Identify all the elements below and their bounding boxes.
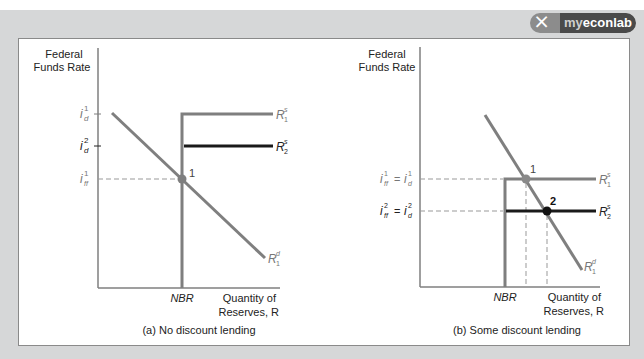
x-axis-label: Quantity of bbox=[223, 292, 277, 304]
x-axis-label: Reserves, R bbox=[543, 305, 604, 317]
svg-text:i: i bbox=[404, 172, 407, 186]
svg-text:ff: ff bbox=[84, 180, 89, 187]
svg-text:d: d bbox=[276, 250, 281, 257]
svg-text:s: s bbox=[607, 203, 611, 210]
svg-text:1: 1 bbox=[276, 260, 280, 267]
demand-curve-r1d bbox=[485, 115, 582, 270]
svg-text:1: 1 bbox=[408, 170, 412, 177]
svg-text:2: 2 bbox=[384, 202, 388, 209]
svg-text:i: i bbox=[80, 139, 83, 153]
curve-label-r2s: R 2 s bbox=[276, 138, 288, 155]
svg-text:d: d bbox=[408, 212, 413, 219]
panel-caption: (a) No discount lending bbox=[142, 324, 255, 336]
svg-text:d: d bbox=[408, 180, 413, 187]
svg-text:s: s bbox=[284, 138, 288, 145]
y-axis-label: Federal bbox=[368, 48, 405, 60]
point-label: 2 bbox=[550, 195, 556, 207]
diagram-svg: Federal Funds Rate i d 1 i d 2 i ff 1 bbox=[0, 0, 644, 359]
svg-text:1: 1 bbox=[84, 104, 89, 113]
nbr-label: NBR bbox=[493, 291, 516, 303]
supply-curve-r1s bbox=[182, 114, 273, 288]
panel-caption: (b) Some discount lending bbox=[453, 324, 581, 336]
curve-label-r1s: R 1 s bbox=[599, 171, 611, 188]
curve-label-r1s: R 1 s bbox=[276, 106, 288, 123]
curve-label-r1d: R 1 d bbox=[268, 250, 281, 267]
curve-label-r2s: R 2 s bbox=[599, 203, 611, 220]
y-axis-label: Funds Rate bbox=[359, 61, 416, 73]
panel-b: Federal Funds Rate i ff 1 = i d 1 i ff 2… bbox=[359, 47, 611, 336]
svg-text:=: = bbox=[394, 205, 400, 217]
y-axis-label: Funds Rate bbox=[34, 61, 91, 73]
point-label: 1 bbox=[189, 167, 195, 179]
svg-text:2: 2 bbox=[607, 213, 611, 220]
svg-text:s: s bbox=[607, 171, 611, 178]
svg-text:1: 1 bbox=[84, 169, 89, 178]
svg-text:2: 2 bbox=[284, 148, 288, 155]
curve-label-r1d: R 1 d bbox=[584, 258, 597, 275]
equilibrium-point-1 bbox=[178, 175, 187, 184]
point-label: 1 bbox=[530, 163, 536, 175]
tick-label-id1: i d 1 bbox=[80, 104, 89, 123]
svg-text:d: d bbox=[592, 258, 597, 265]
svg-text:1: 1 bbox=[607, 181, 611, 188]
svg-text:2: 2 bbox=[408, 202, 412, 209]
svg-text:1: 1 bbox=[384, 170, 388, 177]
svg-text:2: 2 bbox=[84, 136, 89, 145]
svg-text:i: i bbox=[380, 172, 383, 186]
svg-text:i: i bbox=[80, 107, 83, 121]
svg-text:i: i bbox=[80, 172, 83, 186]
tick-label-iff2-id2: i ff 2 = i d 2 bbox=[380, 202, 413, 219]
svg-text:1: 1 bbox=[284, 116, 288, 123]
tick-label-iff1: i ff 1 bbox=[80, 169, 89, 187]
svg-text:d: d bbox=[84, 114, 89, 123]
svg-text:i: i bbox=[380, 204, 383, 218]
demand-curve-r1d bbox=[112, 113, 265, 258]
nbr-label: NBR bbox=[170, 292, 193, 304]
svg-text:=: = bbox=[394, 173, 400, 185]
tick-label-id2: i d 2 bbox=[80, 136, 89, 155]
panel-a: Federal Funds Rate i d 1 i d 2 i ff 1 bbox=[34, 48, 288, 336]
x-axis-label: Quantity of bbox=[548, 291, 602, 303]
y-axis-label: Federal bbox=[45, 48, 82, 60]
equilibrium-point-2 bbox=[543, 207, 552, 216]
svg-text:i: i bbox=[404, 204, 407, 218]
svg-text:1: 1 bbox=[592, 268, 596, 275]
svg-text:s: s bbox=[284, 106, 288, 113]
svg-text:d: d bbox=[84, 146, 89, 155]
svg-text:ff: ff bbox=[384, 212, 389, 219]
tick-label-iff1-id1: i ff 1 = i d 1 bbox=[380, 170, 413, 187]
svg-text:ff: ff bbox=[384, 180, 389, 187]
equilibrium-point-1 bbox=[522, 175, 531, 184]
x-axis-label: Reserves, R bbox=[218, 306, 279, 318]
